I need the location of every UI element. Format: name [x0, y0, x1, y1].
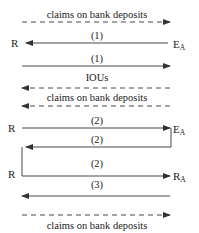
label-claims-top: claims on bank deposits — [47, 9, 148, 21]
node-r-mid: R — [8, 122, 15, 134]
node-ea-top: EA — [173, 38, 185, 54]
node-ea-sub: A — [180, 128, 185, 137]
node-ea-mid: EA — [173, 123, 185, 139]
label-arrow-3: (3) — [91, 179, 103, 191]
label-arrow-2a: (2) — [91, 115, 103, 127]
node-ea-main: E — [173, 123, 180, 135]
label-arrow-1a: (1) — [91, 30, 103, 42]
label-arrow-2c: (2) — [91, 158, 103, 170]
label-claims-mid: claims on bank deposits — [47, 92, 148, 104]
node-r-top: R — [11, 37, 18, 49]
node-r-bottom: R — [8, 168, 15, 180]
label-arrow-2b: (2) — [91, 134, 103, 146]
node-ea-main: E — [173, 38, 180, 50]
label-claims-bottom: claims on bank deposits — [47, 220, 148, 232]
node-ra-sub: A — [180, 175, 185, 184]
node-ra: RA — [173, 170, 186, 186]
node-ea-sub: A — [180, 43, 185, 52]
label-ious: IOUs — [86, 72, 109, 84]
label-arrow-1b: (1) — [91, 53, 103, 65]
